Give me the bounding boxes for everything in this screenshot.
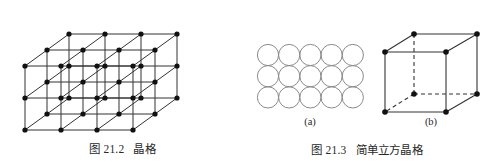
cube-corner-nodes bbox=[382, 31, 480, 115]
caption-title: 简单立方晶格 bbox=[356, 144, 423, 156]
caption-number: 图 21.2 bbox=[89, 143, 124, 155]
figure-page: 图 21.2晶格 bbox=[0, 0, 489, 168]
figure-simple-cubic: 图 21.3简单立方晶格 bbox=[245, 0, 489, 168]
figure-lattice: 图 21.2晶格 bbox=[0, 0, 245, 168]
sphere-packing-grid bbox=[257, 44, 363, 108]
caption-number: 图 21.3 bbox=[311, 144, 346, 156]
caption-title: 晶格 bbox=[133, 143, 155, 155]
lattice-diagram bbox=[0, 0, 245, 140]
panel-label-b: (b) bbox=[403, 116, 459, 127]
unit-cell-cube bbox=[382, 31, 480, 115]
caption-figure-21-2: 图 21.2晶格 bbox=[0, 140, 245, 156]
panel-label-a: (a) bbox=[282, 116, 338, 127]
cube-visible-edges bbox=[385, 34, 477, 112]
cube-hidden-edges bbox=[385, 34, 477, 112]
caption-figure-21-3: 图 21.3简单立方晶格 bbox=[245, 141, 489, 157]
